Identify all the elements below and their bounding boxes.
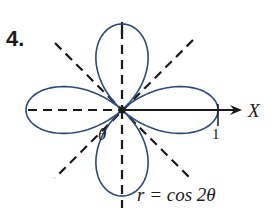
- angle-label: θ: [98, 125, 106, 144]
- origin-point: [119, 107, 126, 114]
- rose-curve-diagram: X θ 1 r = cos 2θ: [0, 0, 278, 212]
- tick-label: 1: [212, 126, 220, 142]
- equation-label: r = cos 2θ: [137, 184, 216, 205]
- x-axis-label: X: [247, 100, 261, 121]
